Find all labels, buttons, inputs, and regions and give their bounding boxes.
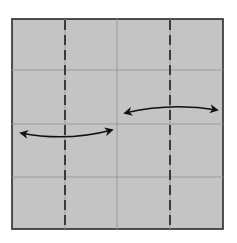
- origami-diagram: [0, 0, 237, 243]
